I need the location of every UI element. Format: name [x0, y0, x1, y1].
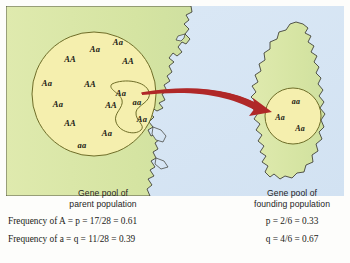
genotype-label: aa [292, 98, 300, 106]
genotype-label: aa [78, 141, 87, 150]
genotype-label: Aa [137, 115, 147, 124]
parent-equation-q: Frequency of a = q = 11/28 = 0.39 [8, 234, 184, 245]
genotype-label: Aa [116, 89, 126, 98]
founding-pool-title-line1: Gene pool of [267, 188, 317, 198]
genotype-label: Aa [295, 125, 305, 133]
genotype-label: Aa [90, 45, 100, 54]
genotype-label: Aa [275, 114, 285, 122]
map-panel: Aa Aa AA AA Aa AA Aa AA AA Aa aa Aa aa A… [6, 6, 344, 196]
founding-equation-q: q = 4/6 = 0.67 [238, 234, 346, 245]
caption-area: Gene pool of parent population Frequency… [0, 188, 350, 263]
parent-pool-title-line1: Gene pool of [78, 188, 128, 198]
founding-pool-title-line2: founding population [254, 199, 330, 209]
genotype-label: Aa [42, 79, 52, 88]
parent-pool-title-line2: parent population [69, 199, 136, 209]
genotype-label: Aa [102, 129, 112, 138]
founding-equation-p: p = 2/6 = 0.33 [238, 216, 346, 227]
genotype-label: AA [64, 119, 76, 128]
genotype-label: AA [84, 80, 96, 89]
genotype-label: Aa [113, 38, 123, 47]
parent-population-caption: Gene pool of parent population Frequency… [8, 188, 184, 245]
founding-population-caption: Gene pool of founding population p = 2/6… [238, 188, 346, 245]
parent-equation-p: Frequency of A = p = 17/28 = 0.61 [8, 216, 184, 227]
parent-pool-title: Gene pool of parent population [22, 188, 184, 209]
genotype-label: AA [122, 57, 134, 66]
founder-effect-figure: Aa Aa AA AA Aa AA Aa AA AA Aa aa Aa aa A… [0, 0, 350, 263]
genotype-label: Aa [53, 100, 63, 109]
genotype-label: AA [105, 101, 117, 110]
genotype-label: aa [133, 98, 142, 107]
founding-pool-title: Gene pool of founding population [238, 188, 346, 209]
genotype-label: AA [64, 55, 76, 64]
